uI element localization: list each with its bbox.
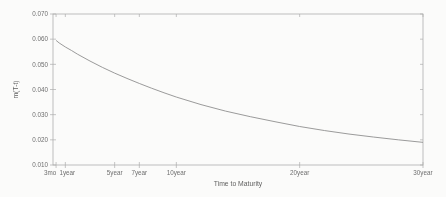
y-tick-label: 0.020 xyxy=(32,136,48,143)
x-tick-labels-group: 3mo1year5year7year10year20year30year xyxy=(44,169,433,177)
x-tick-label: 10year xyxy=(167,169,186,177)
y-axis-label: m(T-t) xyxy=(12,80,20,98)
y-tick-labels-group: 0.0100.0200.0300.0400.0500.0600.070 xyxy=(32,10,48,168)
figure-canvas: 3mo1year5year7year10year20year30year 0.0… xyxy=(0,0,446,197)
x-axis-label: Time to Maturity xyxy=(214,180,263,188)
axes-box xyxy=(53,14,423,165)
y-tick-label: 0.060 xyxy=(32,35,48,42)
chart-svg: 3mo1year5year7year10year20year30year 0.0… xyxy=(0,0,446,197)
y-tick-label: 0.030 xyxy=(32,111,48,118)
yield-curve-line xyxy=(56,40,423,142)
y-tick-label: 0.050 xyxy=(32,61,48,68)
x-tick-label: 3mo xyxy=(44,169,57,176)
plot-area xyxy=(50,14,423,168)
y-ticks-group xyxy=(50,14,423,165)
y-tick-label: 0.070 xyxy=(32,10,48,17)
x-ticks-group xyxy=(56,14,423,168)
x-tick-label: 7year xyxy=(131,169,147,177)
y-tick-label: 0.010 xyxy=(32,161,48,168)
x-tick-label: 5year xyxy=(107,169,123,177)
y-tick-label: 0.040 xyxy=(32,86,48,93)
x-tick-label: 20year xyxy=(290,169,309,177)
x-tick-label: 1year xyxy=(59,169,75,177)
x-tick-label: 30year xyxy=(413,169,432,177)
